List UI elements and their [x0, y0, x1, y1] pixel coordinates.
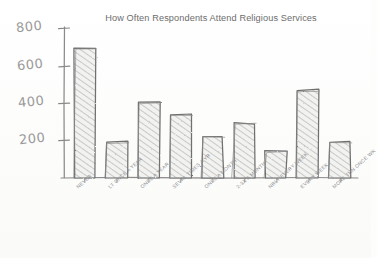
- bar: [138, 102, 160, 178]
- y-tick-label-200: 200: [18, 130, 46, 148]
- y-tick-label-800: 800: [15, 18, 43, 36]
- y-tick-label-400: 400: [17, 93, 45, 111]
- bar: [296, 89, 319, 178]
- bar: [74, 48, 96, 178]
- y-tick-label-600: 600: [16, 56, 44, 74]
- bar-series: [74, 48, 353, 178]
